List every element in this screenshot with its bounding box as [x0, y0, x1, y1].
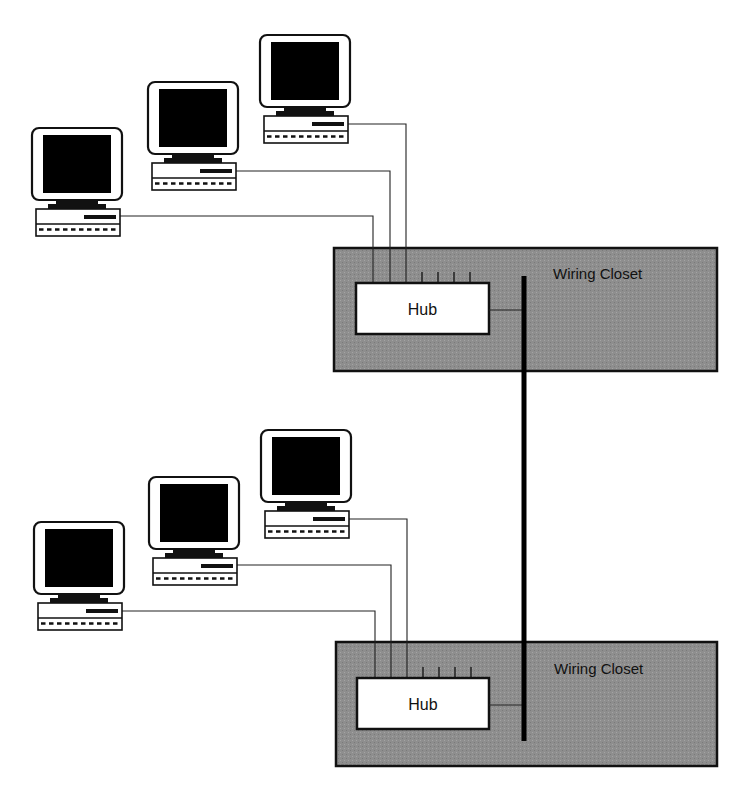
wiring-closet-label: Wiring Closet: [553, 265, 643, 282]
hub-label: Hub: [408, 301, 437, 318]
drive-slot: [86, 609, 118, 613]
computer-icon: [261, 430, 351, 538]
system-unit: [36, 209, 120, 236]
screen: [159, 89, 227, 147]
computer-icon: [149, 477, 239, 585]
system-unit: [152, 163, 236, 190]
system-unit: [153, 558, 237, 585]
system-unit: [265, 511, 349, 538]
backbone: [522, 276, 527, 741]
drive-slot: [313, 517, 345, 521]
screen: [160, 484, 228, 542]
screen: [272, 437, 340, 495]
system-unit: [264, 116, 348, 143]
drive-slot: [312, 122, 344, 126]
hub-label: Hub: [408, 696, 437, 713]
screen: [45, 529, 113, 587]
screen: [43, 135, 111, 193]
backbone-cable: [522, 276, 527, 741]
computers: [32, 35, 351, 630]
screen: [271, 42, 339, 100]
drive-slot: [200, 169, 232, 173]
computer-icon: [260, 35, 350, 143]
network-diagram: HubWiring ClosetHubWiring Closet: [0, 0, 752, 799]
computer-icon: [32, 128, 122, 236]
drive-slot: [84, 215, 116, 219]
wiring-closet-label: Wiring Closet: [554, 660, 644, 677]
computer-icon: [34, 522, 124, 630]
drive-slot: [201, 564, 233, 568]
system-unit: [38, 603, 122, 630]
computer-icon: [148, 82, 238, 190]
cables: [120, 124, 407, 678]
